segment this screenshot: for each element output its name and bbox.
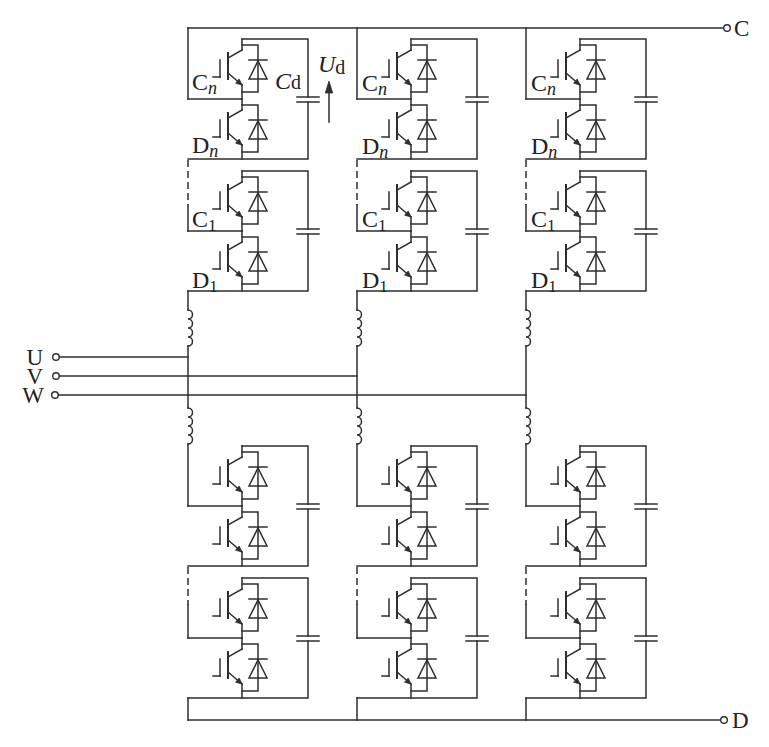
phase-w: W	[22, 383, 526, 408]
terminal-c-icon	[724, 25, 731, 32]
lower-arm-submodule-1	[526, 446, 657, 566]
phase-u: U	[26, 345, 188, 370]
phase-leg-1: Cn Dn C1 D1	[188, 28, 319, 720]
lower-arm-submodule-2	[188, 578, 319, 698]
lower-arm-submodule-2	[526, 578, 657, 698]
label-ud: Ud	[318, 51, 345, 78]
terminal-d-label: D	[732, 708, 749, 733]
lower-arm-submodule-1	[357, 446, 488, 566]
phase-v: V	[26, 364, 357, 389]
label-cd: Cd	[275, 68, 301, 94]
dc-bus-top: C	[188, 16, 749, 41]
voltage-arrow-icon	[325, 81, 332, 122]
label-cn: Cn	[531, 70, 556, 99]
label-c1: C1	[192, 206, 217, 235]
terminal-c-label: C	[734, 16, 749, 41]
dc-bus-bottom: D	[188, 708, 749, 733]
lower-arm-submodule-1	[188, 446, 319, 566]
mmc-circuit-diagram: C D U V W Cn Dn C1 D1 Cd Ud	[0, 0, 769, 747]
label-cn: Cn	[192, 69, 217, 98]
label-c1: C1	[531, 206, 556, 235]
lower-arm-submodule-2	[357, 578, 488, 698]
leg-wiring-with-arm-inductors	[357, 28, 362, 720]
label-d1: D1	[531, 267, 557, 296]
phase-w-label: W	[22, 383, 44, 408]
label-d1: D1	[362, 267, 388, 296]
phase-leg-3: Cn Dn C1 D1	[526, 28, 657, 720]
label-c1: C1	[362, 206, 387, 235]
terminal-u-icon	[53, 354, 60, 361]
terminal-w-icon	[52, 392, 59, 399]
terminal-v-icon	[53, 373, 60, 380]
leg-wiring-with-arm-inductors	[526, 28, 531, 720]
label-cn: Cn	[362, 70, 387, 99]
phase-leg-2: Cn Dn C1 D1	[357, 28, 488, 720]
terminal-d-icon	[721, 717, 728, 724]
label-d1: D1	[192, 267, 218, 296]
